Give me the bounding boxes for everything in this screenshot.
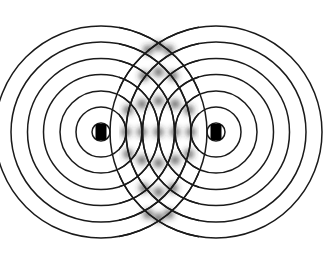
wave-interference-figure: Two-source circular wave interference pa…: [0, 0, 323, 259]
wave-interference-canvas: Two-source circular wave interference pa…: [0, 0, 323, 259]
source-left-marker: [96, 124, 107, 140]
source-right-marker: [211, 124, 222, 140]
